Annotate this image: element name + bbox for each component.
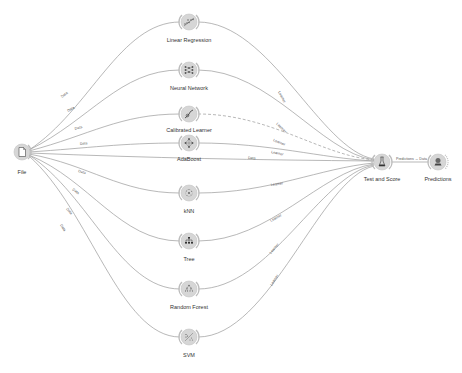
node-random-forest[interactable]: Random Forest: [170, 281, 208, 310]
edge-label-data: Data: [65, 207, 73, 215]
node-label-svm: SVM: [183, 352, 195, 358]
edge-label-learner: Learner: [275, 122, 287, 134]
edge-label-data: Data: [74, 125, 82, 131]
node-file[interactable]: File: [14, 144, 31, 175]
node-label-linear-regression: Linear Regression: [167, 37, 212, 43]
edge-label-learner: Learner: [269, 273, 279, 286]
edge-label-learner: Learner: [271, 150, 285, 157]
edge-label-learner: Learner: [269, 242, 281, 255]
edge-knn-test-and-score[interactable]: [198, 163, 374, 193]
node-calibrated-learner[interactable]: Calibrated Learner: [166, 106, 212, 133]
edge-label-learner: Learner: [273, 138, 287, 147]
edge-tree-test-and-score[interactable]: [198, 164, 374, 241]
edge-file-calibrated-learner[interactable]: [29, 114, 180, 151]
edge-label-data: Data: [71, 188, 80, 196]
node-label-knn: kNN: [184, 208, 195, 214]
node-knn[interactable]: kNN: [179, 185, 199, 214]
node-adaboost[interactable]: AdaBoost: [177, 135, 201, 162]
edge-label-data: Data: [78, 169, 86, 175]
node-label-file: File: [18, 169, 27, 175]
edge-label-data: Data: [59, 223, 66, 232]
edge-label-data: Data: [248, 156, 256, 160]
edge-labels-data: Data Data Data Data Data Data Data Data …: [59, 91, 256, 232]
edge-file-linear-regression[interactable]: [29, 22, 180, 150]
edge-file-svm[interactable]: [29, 156, 180, 337]
edges-from-file: [29, 22, 374, 337]
edge-file-test-and-score[interactable]: [29, 153, 374, 161]
node-label-calibrated-learner: Calibrated Learner: [166, 127, 212, 133]
node-neural-network[interactable]: Neural Network: [170, 62, 208, 91]
node-label-test-and-score: Test and Score: [364, 176, 401, 182]
edge-neural-network-test-and-score[interactable]: [198, 70, 374, 160]
node-svm[interactable]: SVM: [179, 329, 199, 358]
edge-label-data: Data: [80, 141, 88, 146]
edge-linear-regression-test-and-score[interactable]: [198, 22, 374, 159]
edge-label-learner: Learner: [270, 213, 283, 223]
edge-file-neural-network[interactable]: [29, 70, 180, 150]
node-label-neural-network: Neural Network: [170, 85, 208, 91]
edge-label-data: Data: [60, 91, 68, 99]
node-label-adaboost: AdaBoost: [177, 156, 201, 162]
node-linear-regression[interactable]: Linear Regression: [167, 14, 212, 43]
node-label-random-forest: Random Forest: [170, 304, 208, 310]
node-label-predictions: Predictions: [424, 176, 451, 182]
edge-file-random-forest[interactable]: [29, 155, 180, 289]
edge-file-tree[interactable]: [29, 155, 180, 241]
file-icon: [19, 148, 26, 157]
edge-label-learner: Learner: [271, 181, 285, 187]
edge-calibrated-learner-test-and-score[interactable]: [198, 114, 374, 160]
edge-labels-learner: Learner Learner Learner Learner Learner …: [269, 91, 427, 287]
workflow-canvas[interactable]: Data Data Data Data Data Data Data Data …: [0, 0, 462, 373]
node-tree[interactable]: Tree: [179, 233, 199, 262]
edge-random-forest-test-and-score[interactable]: [198, 165, 374, 289]
node-predictions[interactable]: Predictions: [424, 154, 451, 182]
edge-label-predictions-data: Predictions → Data: [396, 157, 427, 161]
node-label-tree: Tree: [183, 256, 194, 262]
